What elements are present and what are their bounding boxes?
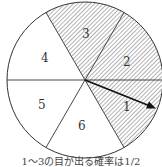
sector-label-5: 5 [38,98,46,112]
sector-label-6: 6 [78,119,86,133]
caption: 1～3の目が出る確率は1/2 [0,153,162,167]
sector-label-1: 1 [123,100,131,114]
spinner-diagram: 1 2 3 4 5 6 [0,0,162,167]
shaded-region [46,2,162,147]
sector-label-4: 4 [41,51,49,65]
sector-label-2: 2 [123,55,131,69]
sector-label-3: 3 [82,27,90,41]
